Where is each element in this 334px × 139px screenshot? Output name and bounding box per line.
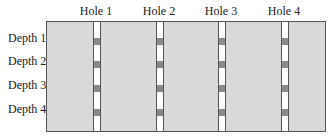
borehole-4 [281,22,289,131]
hole-label-3: Hole 3 [205,4,237,19]
sample-block [157,85,163,92]
sample-block [282,61,288,68]
sample-block [157,61,163,68]
depth-label-4: Depth 4 [8,102,46,117]
depth-label-3: Depth 3 [8,78,46,93]
sample-block [94,38,100,45]
sample-block [282,85,288,92]
depth-label-1: Depth 1 [8,31,46,46]
borehole-3 [218,22,226,131]
sample-block [94,85,100,92]
depth-label-2: Depth 2 [8,54,46,69]
hole-label-4: Hole 4 [268,4,300,19]
hole-label-2: Hole 2 [143,4,175,19]
sample-block [94,61,100,68]
sample-block [219,109,225,116]
sample-block [157,109,163,116]
sample-block [94,109,100,116]
sample-block [282,38,288,45]
sample-block [219,61,225,68]
sample-block [282,109,288,116]
ground-cross-section [46,21,326,132]
sample-block [219,85,225,92]
sample-block [157,38,163,45]
hole-label-1: Hole 1 [80,4,112,19]
sample-block [219,38,225,45]
borehole-2 [156,22,164,131]
borehole-1 [93,22,101,131]
